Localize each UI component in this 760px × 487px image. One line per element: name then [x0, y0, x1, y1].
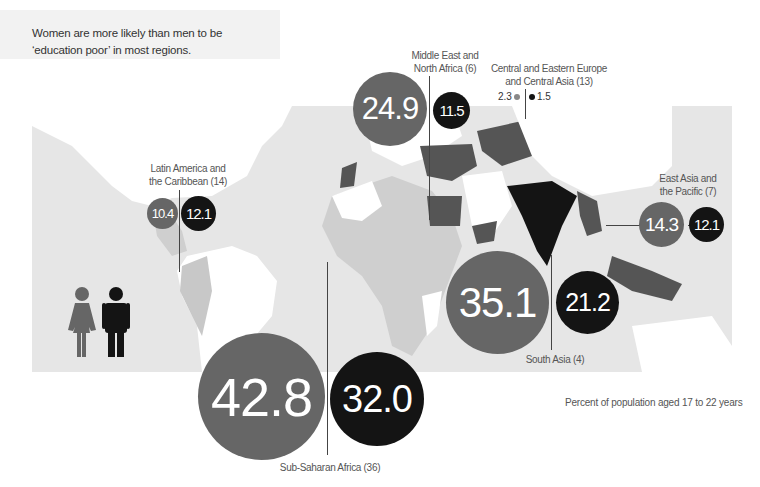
bubble-east-asia-male: 12.1	[689, 207, 724, 242]
leader-line-central-europe	[525, 89, 526, 119]
bubble-central-europe-male	[529, 94, 535, 100]
label-south-asia: South Asia (4)	[515, 353, 595, 366]
label-central-europe: Central and Eastern Europe and Central A…	[475, 62, 623, 88]
chart-title: Women are more likely than men to be ‘ed…	[32, 25, 272, 59]
bubble-middle-east-male: 11.5	[433, 92, 470, 129]
leader-line-sub-saharan	[327, 262, 328, 455]
leader-line-middle-east	[429, 76, 430, 220]
map-land-shapes	[32, 106, 732, 372]
title-box: Women are more likely than men to be ‘ed…	[0, 10, 280, 59]
leader-line-latin-america	[179, 190, 180, 272]
label-sub-saharan: Sub-Saharan Africa (36)	[270, 461, 390, 474]
bubble-south-asia-female: 35.1	[446, 251, 549, 354]
female-icon	[67, 287, 97, 361]
bubble-central-europe-female	[514, 94, 520, 100]
bubble-middle-east-female: 24.9	[353, 72, 427, 146]
bubble-sub-saharan-male: 32.0	[330, 352, 424, 446]
bubble-sub-saharan-female: 42.8	[198, 333, 325, 460]
leader-line-south-asia	[551, 255, 552, 350]
label-east-asia: East Asia and the Pacific (7)	[655, 172, 721, 198]
values-central-europe-male: 1.5	[527, 91, 551, 102]
world-map	[32, 106, 732, 372]
bubble-east-asia-female: 14.3	[639, 202, 684, 247]
bubble-south-asia-male: 21.2	[556, 271, 619, 334]
label-middle-east: Middle East and North Africa (6)	[405, 49, 485, 75]
label-latin-america: Latin America and the Caribbean (14)	[138, 162, 238, 188]
male-icon	[102, 287, 130, 361]
bubble-latin-america-female: 10.4	[147, 198, 178, 229]
values-central-europe-female: 2.3	[498, 91, 522, 102]
bubble-latin-america-male: 12.1	[181, 196, 216, 231]
footnote: Percent of population aged 17 to 22 year…	[565, 397, 743, 408]
